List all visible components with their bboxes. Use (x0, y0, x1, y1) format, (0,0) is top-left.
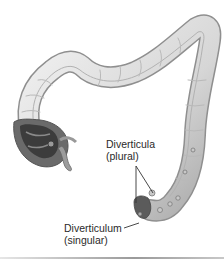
diverticulum-note: (singular) (64, 234, 122, 246)
diverticulum-label: Diverticulum (singular) (64, 222, 122, 246)
diverticulum-term: Diverticulum (64, 222, 122, 234)
bottom-rule (0, 257, 224, 259)
diverticula-label: Diverticula (plural) (106, 138, 155, 162)
colon-tube (22, 25, 210, 210)
sigmoid-end (134, 196, 151, 218)
cecum (14, 119, 76, 171)
diverticula-note: (plural) (106, 150, 155, 162)
diverticula-term: Diverticula (106, 138, 155, 150)
colon-illustration: Diverticula (plural) Diverticulum (singu… (0, 0, 224, 260)
colon-drawing (0, 0, 224, 260)
